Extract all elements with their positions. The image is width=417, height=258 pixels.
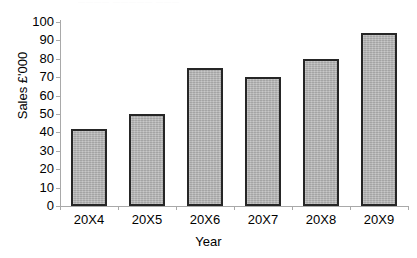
y-axis-tick-mark: [56, 169, 60, 170]
x-axis-tick-mark: [292, 206, 293, 210]
y-axis-tick-mark: [56, 151, 60, 152]
y-axis-tick-label: 50: [40, 106, 54, 121]
bar: [71, 129, 107, 206]
y-axis-tick-mark: [56, 114, 60, 115]
y-axis-tick-label: 100: [32, 14, 54, 29]
x-axis-tick-label: 20X8: [292, 212, 350, 227]
y-axis-tick-mark: [56, 132, 60, 133]
x-axis-tick-mark: [408, 206, 409, 210]
bar: [129, 114, 165, 206]
bar-chart-figure: ———— ————— ——— Sales £'000 0102030405060…: [0, 0, 417, 258]
y-axis-tick-label: 30: [40, 143, 54, 158]
y-axis-tick-mark: [56, 77, 60, 78]
y-axis-tick-mark: [56, 40, 60, 41]
y-axis-tick-mark: [56, 22, 60, 23]
y-axis-tick-label: 10: [40, 180, 54, 195]
bar: [303, 59, 339, 206]
x-axis-tick-mark: [350, 206, 351, 210]
y-axis-tick-label: 60: [40, 88, 54, 103]
y-axis-tick-label: 0: [47, 198, 54, 213]
y-axis-tick-mark: [56, 59, 60, 60]
x-axis-tick-mark: [176, 206, 177, 210]
bar: [361, 33, 397, 206]
x-axis-tick-mark: [60, 206, 61, 210]
chart-title-strip: ———— ————— ———: [78, 0, 268, 4]
bar: [187, 68, 223, 206]
y-axis-tick-label: 90: [40, 32, 54, 47]
y-axis-tick-mark: [56, 96, 60, 97]
y-axis-tick-label: 80: [40, 51, 54, 66]
plot-area: 0102030405060708090100: [60, 22, 408, 206]
y-axis-tick-label: 70: [40, 69, 54, 84]
x-axis-tick-label: 20X7: [234, 212, 292, 227]
x-axis-tick-label: 20X4: [60, 212, 118, 227]
y-axis-title: Sales £'000: [15, 26, 30, 146]
y-axis-tick-mark: [56, 188, 60, 189]
x-axis-tick-mark: [118, 206, 119, 210]
x-axis-title: Year: [0, 234, 417, 249]
x-axis-tick-label: 20X6: [176, 212, 234, 227]
x-axis-tick-label: 20X5: [118, 212, 176, 227]
y-axis-line: [60, 20, 61, 208]
x-axis-tick-label: 20X9: [350, 212, 408, 227]
x-axis-tick-mark: [234, 206, 235, 210]
y-axis-tick-label: 40: [40, 124, 54, 139]
y-axis-tick-label: 20: [40, 161, 54, 176]
bar: [245, 77, 281, 206]
